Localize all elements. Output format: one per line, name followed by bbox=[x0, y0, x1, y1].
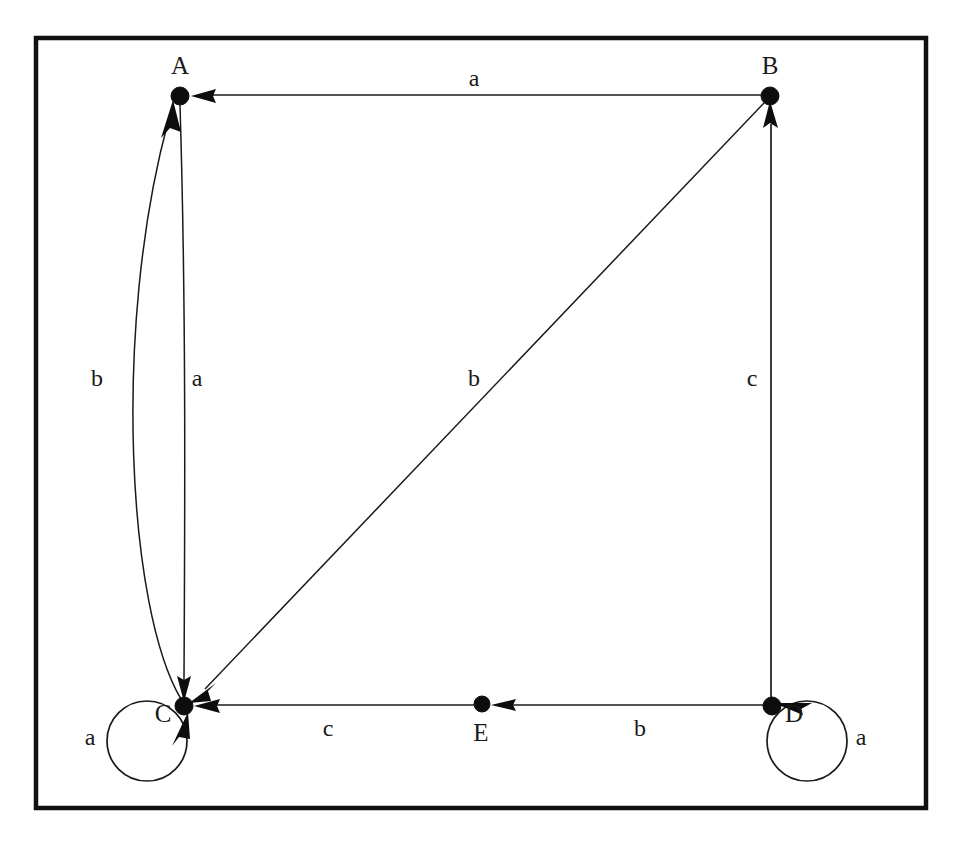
node-c-dot[interactable] bbox=[175, 697, 193, 715]
edge-d-self-loop bbox=[767, 701, 847, 781]
edge-label-d-to-e: b bbox=[634, 715, 646, 741]
edge-c-to-a bbox=[133, 100, 181, 699]
edge-c-self-loop bbox=[107, 701, 190, 781]
edge-label-a-to-c: a bbox=[192, 365, 203, 391]
edge-label-e-to-c: c bbox=[323, 715, 334, 741]
node-label-d: D bbox=[785, 700, 803, 727]
edge-b-to-c bbox=[189, 103, 764, 703]
edge-a-to-c-curve bbox=[180, 105, 185, 680]
graph-canvas: A B C D E a b a b c c b a a bbox=[0, 0, 959, 847]
edge-c-to-a-arrowhead bbox=[161, 100, 181, 138]
edge-label-d-self-loop: a bbox=[856, 724, 867, 750]
edge-d-to-e bbox=[491, 699, 765, 711]
edge-c-to-a-curve bbox=[133, 122, 181, 699]
node-e-dot[interactable] bbox=[474, 696, 490, 712]
edge-b-to-a-arrowhead bbox=[191, 89, 216, 103]
edge-label-c-to-a: b bbox=[91, 365, 103, 391]
edge-d-to-e-arrowhead bbox=[491, 699, 516, 711]
node-label-e: E bbox=[473, 719, 488, 746]
edge-b-to-c-arrowhead bbox=[189, 683, 216, 703]
edge-b-to-a bbox=[191, 89, 761, 103]
node-label-c: C bbox=[155, 700, 172, 727]
figure-root: A B C D E a b a b c c b a a bbox=[0, 0, 959, 847]
node-label-b: B bbox=[762, 52, 779, 79]
figure-frame bbox=[36, 38, 926, 808]
edge-label-b-to-a: a bbox=[469, 65, 480, 91]
edge-d-self-loop-circle bbox=[767, 701, 847, 781]
edge-e-to-c bbox=[194, 699, 474, 713]
edge-label-b-to-c: b bbox=[468, 365, 480, 391]
edge-a-to-c bbox=[177, 105, 191, 702]
node-d-dot[interactable] bbox=[763, 697, 781, 715]
edge-label-d-to-b: c bbox=[747, 365, 758, 391]
node-a-dot[interactable] bbox=[171, 87, 189, 105]
edge-label-c-self-loop: a bbox=[85, 724, 96, 750]
edge-d-to-b bbox=[763, 101, 778, 698]
edge-b-to-c-line bbox=[205, 103, 764, 689]
node-b-dot[interactable] bbox=[761, 87, 779, 105]
node-label-a: A bbox=[171, 52, 189, 79]
